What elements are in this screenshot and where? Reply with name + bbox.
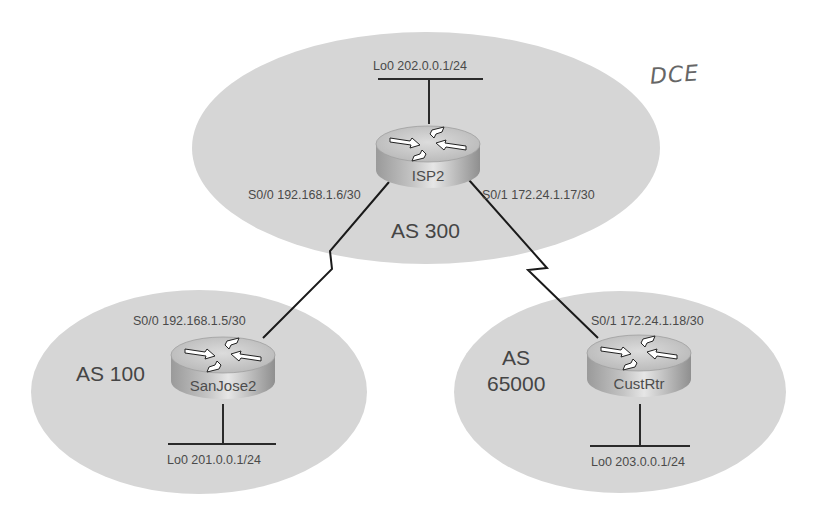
sanjose2-lo0-label: Lo0 201.0.0.1/24 — [167, 454, 261, 467]
as65000-label-line1: AS — [502, 346, 530, 370]
dce-handwritten-annotation: DCE — [649, 60, 700, 88]
custrtr-lo0-label: Lo0 203.0.0.1/24 — [591, 456, 685, 469]
router-name-isp2: ISP2 — [378, 168, 478, 183]
isp2-s01-label: S0/1 172.24.1.17/30 — [482, 189, 595, 202]
as100-label: AS 100 — [76, 362, 145, 386]
custrtr-s01-label: S0/1 172.24.1.18/30 — [591, 315, 704, 328]
router-name-sanjose2: SanJose2 — [171, 378, 275, 393]
as300-label: AS 300 — [391, 219, 460, 243]
isp2-lo0-label: Lo0 202.0.0.1/24 — [373, 60, 467, 73]
router-name-custrtr: CustRtr — [587, 376, 691, 391]
as65000-label-line2: 65000 — [487, 372, 545, 396]
isp2-s00-label: S0/0 192.168.1.6/30 — [248, 189, 361, 202]
topology-canvas — [0, 0, 824, 510]
sanjose2-s00-label: S0/0 192.168.1.5/30 — [133, 315, 246, 328]
